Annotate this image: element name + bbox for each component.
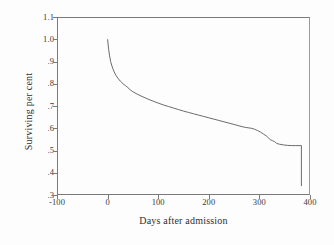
y-tick-mark bbox=[53, 17, 57, 18]
y-axis-tick-labels: .3.4.5.6.7.8.91.01.1 bbox=[30, 0, 54, 245]
y-tick-label: .8 bbox=[32, 79, 54, 88]
x-tick-mark bbox=[259, 195, 260, 199]
x-tick-mark bbox=[108, 195, 109, 199]
y-tick-label: 1.1 bbox=[32, 13, 54, 22]
y-axis-title: Surviving per cent bbox=[23, 22, 34, 202]
x-axis-title: Days after admission bbox=[57, 215, 310, 226]
x-tick-mark bbox=[209, 195, 210, 199]
y-tick-mark bbox=[53, 128, 57, 129]
y-tick-label: 1.0 bbox=[32, 35, 54, 44]
y-tick-mark bbox=[53, 39, 57, 40]
y-tick-label: .7 bbox=[32, 102, 54, 111]
x-tick-mark bbox=[310, 195, 311, 199]
x-tick-mark bbox=[158, 195, 159, 199]
survival-curve-line bbox=[108, 39, 302, 186]
y-tick-label: .6 bbox=[32, 124, 54, 133]
y-tick-mark bbox=[53, 84, 57, 85]
y-tick-mark bbox=[53, 173, 57, 174]
y-tick-mark bbox=[53, 151, 57, 152]
y-tick-mark bbox=[53, 62, 57, 63]
y-tick-label: .4 bbox=[32, 168, 54, 177]
x-tick-mark bbox=[57, 195, 58, 199]
y-tick-label: .9 bbox=[32, 57, 54, 66]
survival-chart-figure: .3.4.5.6.7.8.91.01.1 Days after admissio… bbox=[0, 0, 334, 245]
survival-curve-svg bbox=[57, 17, 310, 195]
y-tick-mark bbox=[53, 106, 57, 107]
y-tick-label: .5 bbox=[32, 146, 54, 155]
